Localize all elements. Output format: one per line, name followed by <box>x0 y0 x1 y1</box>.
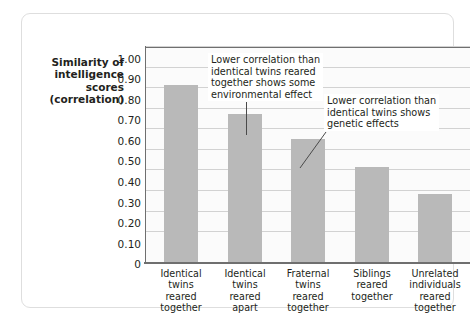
bar-siblings-reared-together <box>355 167 389 262</box>
y-tick-label: 0.70 <box>93 114 141 126</box>
cat-line: individuals <box>399 279 471 290</box>
cat-line: together <box>272 302 344 313</box>
cat-line: together <box>145 302 217 313</box>
x-tick-label-identical-twins-reared-together: Identical twins reared together <box>145 268 217 314</box>
x-axis-line <box>144 262 470 264</box>
y-tick-label: 1.00 <box>93 53 141 65</box>
cat-line: reared <box>399 291 471 302</box>
annotation-leader-line-2 <box>300 132 330 170</box>
annotation-line: together shows some <box>211 77 320 89</box>
y-tick-label: 0.20 <box>93 217 141 229</box>
y-tick-label: 0.90 <box>93 73 141 85</box>
bar-identical-twins-reared-apart <box>228 114 262 262</box>
cat-line: Fraternal <box>272 268 344 279</box>
cat-line: apart <box>209 302 281 313</box>
plot-area: 1.00 0.90 0.80 0.70 0.60 0.50 0.40 0.30 … <box>145 46 470 264</box>
y-tick-label: 0.30 <box>93 197 141 209</box>
gridline <box>145 46 470 47</box>
cat-line: Siblings <box>336 268 408 279</box>
chart-card: Similarity of intelligence scores (corre… <box>21 13 454 308</box>
y-tick-label: 0.60 <box>93 135 141 147</box>
annotation-leader-line-1 <box>246 102 247 135</box>
x-tick-label-unrelated-individuals-reared-together: Unrelated individuals reared together <box>399 268 471 314</box>
y-tick-label: 0 <box>93 258 141 270</box>
annotation-line: environmental effect <box>211 89 320 101</box>
y-tick-label: 0.50 <box>93 155 141 167</box>
cat-line: twins <box>209 279 281 290</box>
y-tick-label: 0.40 <box>93 176 141 188</box>
cat-line: Unrelated <box>399 268 471 279</box>
bar-unrelated-individuals-reared-together <box>418 194 452 262</box>
y-tick-label: 0.10 <box>93 238 141 250</box>
annotation-line: genetic effects <box>327 118 436 130</box>
annotation-line: identical twins shows <box>327 107 436 119</box>
cat-line: Identical <box>145 268 217 279</box>
cat-line: reared <box>209 291 281 302</box>
annotation-line: identical twins reared <box>211 66 320 78</box>
annotation-line: Lower correlation than <box>211 54 320 66</box>
cat-line: reared <box>145 291 217 302</box>
annotation-environmental-effect: Lower correlation than identical twins r… <box>208 53 323 101</box>
cat-line: reared <box>336 279 408 290</box>
y-axis-line <box>145 46 146 264</box>
cat-line: twins <box>145 279 217 290</box>
cat-line: twins <box>272 279 344 290</box>
cat-line: reared <box>272 291 344 302</box>
annotation-line: Lower correlation than <box>327 95 436 107</box>
bar-identical-twins-reared-together <box>164 85 198 262</box>
x-tick-label-fraternal-twins-reared-together: Fraternal twins reared together <box>272 268 344 314</box>
cat-line: together <box>399 302 471 313</box>
y-tick-label: 0.80 <box>93 94 141 106</box>
annotation-genetic-effects: Lower correlation than identical twins s… <box>324 94 439 131</box>
x-tick-label-siblings-reared-together: Siblings reared together <box>336 268 408 302</box>
x-tick-label-identical-twins-reared-apart: Identical twins reared apart <box>209 268 281 314</box>
cat-line: Identical <box>209 268 281 279</box>
cat-line: together <box>336 291 408 302</box>
